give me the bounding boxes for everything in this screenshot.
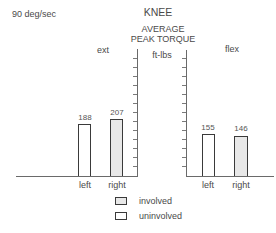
bar-value-flex-right: 146 <box>234 124 247 134</box>
panel-label-ext: ext <box>97 45 109 55</box>
bar-ext-left-uninvolved <box>78 124 91 176</box>
x-axis-ext <box>16 176 138 177</box>
x-label-flex-left: left <box>202 180 214 190</box>
legend-swatch-uninvolved <box>115 212 127 220</box>
y-axis-ext <box>137 49 138 176</box>
bar-value-flex-left: 155 <box>201 123 214 133</box>
legend-label-uninvolved: uninvolved <box>139 211 182 221</box>
legend-label-involved: involved <box>139 196 172 206</box>
x-label-ext-left: left <box>79 180 91 190</box>
x-label-flex-right: right <box>232 180 250 190</box>
chart-title: KNEE <box>144 7 173 17</box>
y-axis-unit: ft-lbs <box>152 50 172 60</box>
y-axis-flex <box>186 50 187 176</box>
metric-line-1: AVERAGE <box>142 24 185 34</box>
bar-value-ext-left: 188 <box>78 113 91 123</box>
bar-flex-left-uninvolved <box>202 134 215 176</box>
x-label-ext-right: right <box>108 180 126 190</box>
panel-label-flex: flex <box>225 44 239 54</box>
bar-value-ext-right: 207 <box>110 108 123 118</box>
x-axis-flex <box>186 176 274 177</box>
bar-flex-right-involved <box>234 136 248 176</box>
bar-ext-right-involved <box>110 119 123 176</box>
legend-swatch-involved <box>115 197 127 205</box>
metric-line-2: PEAK TORQUE <box>131 34 196 44</box>
speed-label: 90 deg/sec <box>12 9 56 19</box>
